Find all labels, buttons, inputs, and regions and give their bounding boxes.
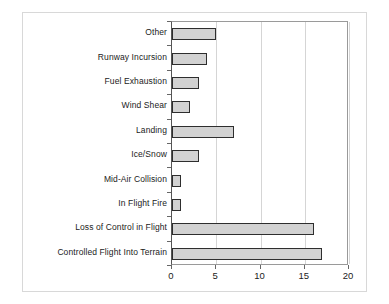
bar	[172, 199, 181, 211]
value-axis-tick-label: 0	[168, 270, 173, 281]
bar	[172, 77, 199, 89]
bar	[172, 223, 314, 235]
category-axis-tick	[167, 45, 171, 46]
value-axis-tick	[215, 265, 216, 269]
bar	[172, 53, 207, 65]
bar	[172, 175, 181, 187]
category-label: Other	[145, 28, 167, 37]
bar-chart-figure: Controlled Flight Into TerrainLoss of Co…	[0, 0, 389, 304]
category-axis-tick	[167, 192, 171, 193]
value-axis-tick-label: 5	[213, 270, 218, 281]
category-label: Fuel Exhaustion	[105, 77, 167, 86]
category-label: Ice/Snow	[131, 150, 167, 159]
plot-area	[171, 21, 348, 265]
category-label: Wind Shear	[122, 101, 167, 110]
value-axis-tick	[304, 265, 305, 269]
category-label: Landing	[136, 126, 167, 135]
category-axis-tick	[167, 241, 171, 242]
category-axis-tick	[167, 119, 171, 120]
value-axis-tick	[171, 265, 172, 269]
category-label: Mid-Air Collision	[104, 175, 167, 184]
bar	[172, 150, 199, 162]
category-label: Controlled Flight Into Terrain	[57, 248, 167, 257]
value-axis-tick-label: 20	[343, 270, 354, 281]
category-axis-tick	[167, 70, 171, 71]
category-label: Loss of Control in Flight	[75, 223, 167, 232]
gridline	[349, 22, 350, 264]
category-axis-labels: Controlled Flight Into TerrainLoss of Co…	[0, 21, 167, 265]
category-axis-tick	[167, 94, 171, 95]
category-label: Runway Incursion	[98, 53, 167, 62]
value-axis-tick	[260, 265, 261, 269]
bar	[172, 126, 234, 138]
category-label: In Flight Fire	[118, 199, 167, 208]
category-axis-tick	[167, 143, 171, 144]
value-axis-tick-label: 10	[254, 270, 265, 281]
bar	[172, 28, 216, 40]
bar	[172, 248, 322, 260]
category-axis-tick	[167, 167, 171, 168]
category-axis-tick	[167, 216, 171, 217]
bar	[172, 101, 190, 113]
category-axis-tick	[167, 21, 171, 22]
value-axis-tick-label: 15	[298, 270, 309, 281]
value-axis-tick	[348, 265, 349, 269]
